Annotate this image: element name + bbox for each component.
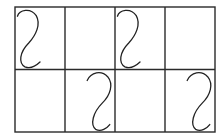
grid-cell-r0-c0	[15, 7, 65, 70]
grid-cell-r1-c2	[115, 70, 165, 133]
grid-cell-r1-c0	[15, 70, 65, 133]
grid-cell-r1-c1	[65, 70, 115, 133]
grid-cell-r0-c2	[115, 7, 165, 70]
grid-cell-r0-c1	[65, 7, 115, 70]
diagram-canvas	[0, 0, 223, 140]
grid-cell-r1-c3	[165, 70, 215, 133]
grid-cell-r0-c3	[165, 7, 215, 70]
grid-diagram	[0, 0, 223, 140]
